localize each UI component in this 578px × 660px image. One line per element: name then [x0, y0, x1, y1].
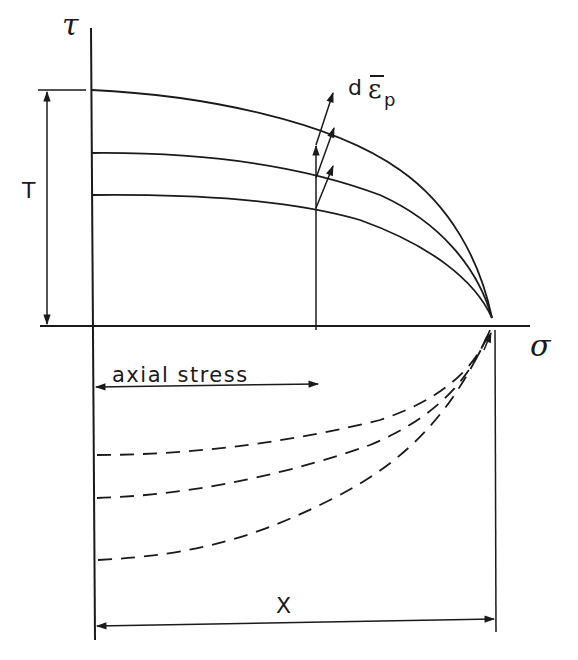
t-dimension — [38, 90, 86, 324]
x-label: X — [276, 593, 291, 618]
strain-increment-prefix: d — [348, 75, 362, 100]
torque-label: T — [21, 178, 36, 203]
solid-yield-curves — [92, 90, 492, 318]
dashed-curve-2 — [97, 330, 490, 498]
yield-curve-middle — [92, 153, 492, 318]
tau-axis-label: τ — [62, 7, 79, 42]
strain-increment-label: d ε p — [348, 74, 395, 110]
strain-increment-subscript: p — [384, 89, 395, 110]
yield-curve-inner — [92, 195, 492, 318]
strain-increment-symbol: ε — [368, 74, 381, 104]
axial-stress-label: axial stress — [112, 363, 249, 387]
tau-axis — [91, 28, 95, 640]
yield-surface-diagram: τ σ T d ε p axial stress X — [0, 0, 578, 660]
yield-curve-outer — [92, 90, 492, 318]
dashed-curve-1 — [97, 330, 490, 455]
sigma-axis-label: σ — [530, 328, 552, 363]
